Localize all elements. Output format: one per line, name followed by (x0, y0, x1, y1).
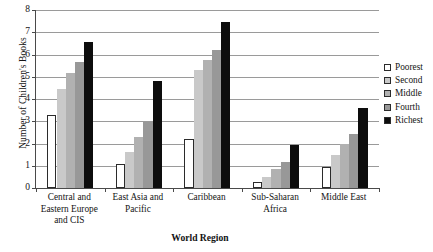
bar-poorest (322, 167, 331, 188)
bar-richest (84, 42, 93, 188)
bar-chart-figure: Number of Children's Books 012345678 Cen… (0, 0, 433, 252)
x-category-label-line: Pacific (98, 204, 179, 216)
bar-richest (358, 108, 367, 188)
legend-item-fourth[interactable]: Fourth (384, 101, 423, 114)
bar-poorest (253, 182, 262, 188)
bar-richest (221, 22, 230, 188)
bar-middle (134, 137, 143, 188)
bar-group (242, 10, 311, 188)
legend-item-second[interactable]: Second (384, 74, 423, 87)
legend-label: Middle (395, 89, 422, 98)
bar-group (310, 10, 379, 188)
legend-swatch-icon (384, 117, 391, 124)
bar-second (331, 155, 340, 188)
legend: PoorestSecondMiddleFourthRichest (384, 61, 423, 127)
bar-fourth (281, 162, 290, 188)
legend-label: Richest (395, 116, 423, 125)
legend-item-richest[interactable]: Richest (384, 114, 423, 127)
legend-swatch-icon (384, 104, 391, 111)
legend-swatch-icon (384, 77, 391, 84)
bar-second (57, 89, 66, 188)
bar-middle (203, 60, 212, 188)
x-axis-title: World Region (0, 232, 400, 243)
bar-group (173, 10, 242, 188)
legend-item-poorest[interactable]: Poorest (384, 61, 423, 74)
bar-poorest (184, 139, 193, 188)
bar-series-container (36, 10, 379, 188)
bar-fourth (212, 50, 221, 188)
legend-swatch-icon (384, 64, 391, 71)
bar-poorest (116, 164, 125, 188)
x-category-label-line: and CIS (29, 215, 110, 227)
legend-label: Fourth (395, 103, 420, 112)
y-tick-label: 3 (25, 117, 30, 127)
legend-swatch-icon (384, 90, 391, 97)
bar-middle (271, 169, 280, 188)
y-tick-label: 4 (25, 94, 30, 104)
x-category-label-line: Africa (235, 204, 316, 216)
bar-group (36, 10, 105, 188)
bar-richest (153, 81, 162, 188)
x-category-label: Middle East (303, 192, 384, 204)
bar-fourth (75, 62, 84, 188)
legend-label: Second (395, 76, 422, 85)
y-tick-label: 8 (25, 5, 30, 15)
bar-second (262, 177, 271, 188)
bar-fourth (349, 134, 358, 189)
bar-fourth (143, 122, 152, 188)
bar-middle (340, 144, 349, 189)
legend-item-middle[interactable]: Middle (384, 87, 423, 100)
bar-middle (66, 73, 75, 188)
y-tick-label: 7 (25, 28, 30, 38)
y-tick-label: 2 (25, 139, 30, 149)
y-tick-label: 1 (25, 161, 30, 171)
legend-label: Poorest (395, 63, 423, 72)
y-tick-label: 6 (25, 50, 30, 60)
bar-group (105, 10, 174, 188)
bar-second (194, 70, 203, 188)
bar-poorest (47, 115, 56, 188)
bar-richest (290, 145, 299, 188)
bar-second (125, 152, 134, 188)
x-category-label-line: Middle East (303, 192, 384, 204)
plot-area: 012345678 (35, 10, 379, 189)
y-tick-label: 5 (25, 72, 30, 82)
